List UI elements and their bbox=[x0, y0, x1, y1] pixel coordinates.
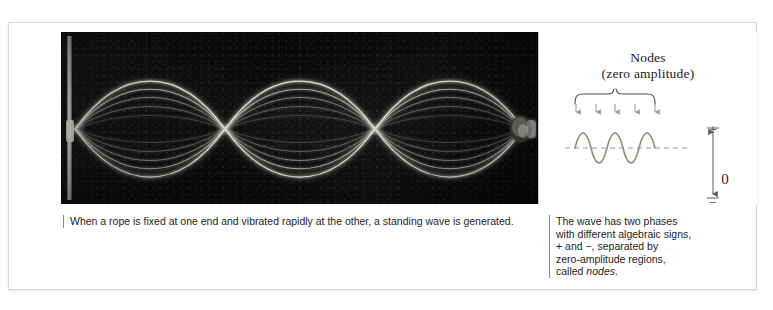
caption-right: The wave has two phases with different a… bbox=[549, 215, 749, 278]
axis-zero-label: 0 bbox=[717, 171, 733, 188]
figure-page: Nodes (zero amplitude) bbox=[0, 0, 773, 310]
caption-right-line-4: zero-amplitude regions, bbox=[556, 253, 666, 265]
caption-right-italic-term: nodes bbox=[586, 265, 615, 277]
caption-right-line-1: The wave has two phases bbox=[556, 215, 677, 227]
photo-vignette bbox=[61, 32, 538, 204]
caption-right-line-3: + and −, separated by bbox=[556, 240, 658, 252]
caption-right-period: . bbox=[615, 265, 618, 277]
caption-left: When a rope is fixed at one end and vibr… bbox=[63, 215, 535, 228]
nodes-brace bbox=[575, 89, 655, 104]
axis-minus-label: − bbox=[705, 195, 721, 211]
caption-right-line-2: with different algebraic signs, bbox=[556, 228, 691, 240]
caption-right-line-5: called bbox=[556, 265, 586, 277]
node-arrows bbox=[576, 104, 655, 112]
figure-card: Nodes (zero amplitude) bbox=[8, 22, 757, 290]
axis-plus-label: + bbox=[705, 122, 721, 138]
standing-wave-photograph bbox=[61, 32, 539, 204]
nodes-wave-diagram: Nodes (zero amplitude) bbox=[539, 32, 757, 204]
